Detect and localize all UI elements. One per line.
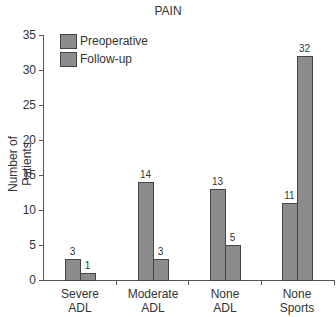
y-axis-title: Number of Patients [6,114,34,214]
bar-follow-up [80,273,96,281]
bar-value-label: 1 [73,261,103,271]
y-tick-label: 35 [12,29,36,41]
y-tick-label: 30 [12,64,36,76]
legend-swatch-preoperative [60,34,77,49]
bar-value-label: 13 [203,177,233,187]
bar-preoperative [138,182,154,281]
x-tick [334,280,335,285]
bar-follow-up [297,56,313,281]
y-tick [39,280,44,281]
y-tick-label: 0 [12,274,36,286]
x-tick [116,280,117,285]
x-category-label: ModerateADL [117,287,189,315]
y-tick [39,140,44,141]
y-axis [43,35,44,280]
y-tick [39,210,44,211]
bar-value-label: 3 [146,247,176,257]
bar-follow-up [153,259,169,281]
y-tick [39,35,44,36]
legend-swatch-follow-up [60,52,77,67]
y-tick-label: 15 [12,169,36,181]
y-tick [39,245,44,246]
bar-value-label: 5 [218,233,248,243]
x-category-label: SevereADL [44,287,116,315]
chart-title: PAIN [0,4,336,18]
legend-label-preoperative: Preoperative [80,34,148,49]
bar-value-label: 14 [131,170,161,180]
y-tick [39,105,44,106]
x-category-label: NoneADL [189,287,261,315]
x-tick [188,280,189,285]
y-tick [39,175,44,176]
y-tick-label: 20 [12,134,36,146]
bar-value-label: 32 [290,44,320,54]
bar-preoperative [282,203,298,281]
y-tick-label: 5 [12,239,36,251]
bar-follow-up [225,245,241,281]
x-tick [261,280,262,285]
bar-value-label: 3 [58,247,88,257]
y-tick-label: 10 [12,204,36,216]
legend-label-follow-up: Follow-up [80,52,132,67]
y-tick [39,70,44,71]
y-tick-label: 25 [12,99,36,111]
x-category-label: NoneSports [261,287,333,315]
